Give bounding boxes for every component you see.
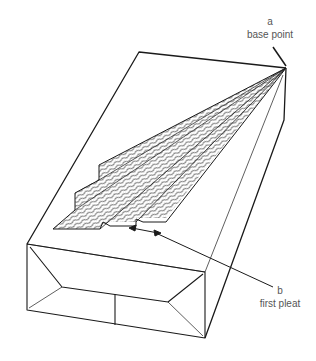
- first-pleat-arrow: [129, 225, 161, 236]
- label-a-letter: a: [240, 15, 300, 28]
- label-a-text: base point: [240, 28, 300, 41]
- label-b-first-pleat: b first pleat: [250, 284, 310, 310]
- label-b-letter: b: [250, 284, 310, 297]
- label-a-base-point: a base point: [240, 15, 300, 41]
- pleat-fan: [53, 68, 286, 229]
- label-b-text: first pleat: [250, 297, 310, 310]
